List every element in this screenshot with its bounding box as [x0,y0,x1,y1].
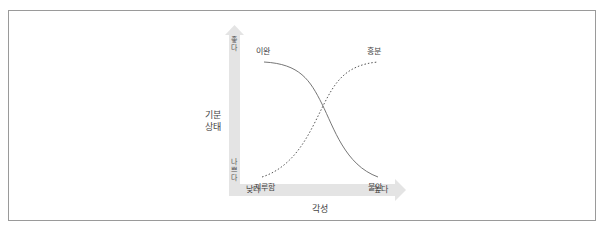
label-excitement: 흥분 [367,48,381,56]
label-relaxation: 이완 [256,48,270,56]
label-boredom: 지루함 [254,184,275,192]
x-axis-title: 각성 [300,203,340,215]
boredom-excitement-curve [262,62,378,177]
label-anxiety-visible: 불안 [368,184,382,192]
diagram-canvas [0,0,605,231]
y-axis-title-line1: 기분 [198,109,228,121]
y-axis-title-line2: 상태 [198,121,228,133]
y-axis-top-label: 좋다 [229,36,239,52]
y-axis-title: 기분 상태 [198,109,228,133]
relaxation-anxiety-curve [264,62,378,177]
y-axis-bottom-label: 나쁘다 [229,158,239,182]
